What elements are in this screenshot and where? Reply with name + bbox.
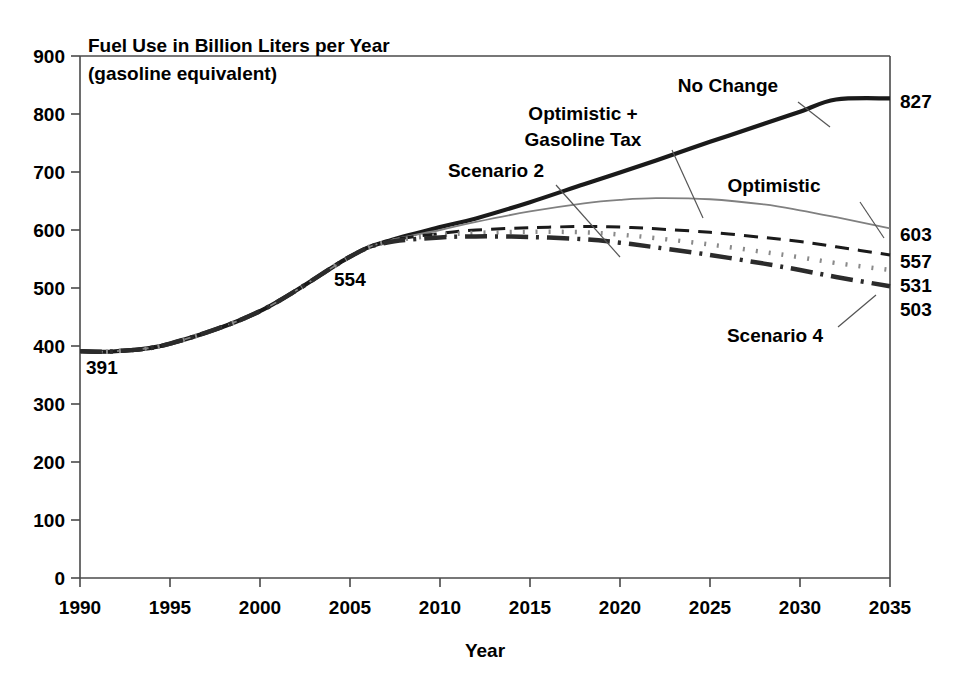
endpoint-value-label-827: 827 (900, 91, 932, 112)
x-tick-label: 2015 (509, 597, 552, 618)
y-tick-label: 300 (33, 394, 65, 415)
y-tick-label: 0 (54, 568, 65, 589)
x-tick-label: 2035 (869, 597, 912, 618)
endpoint-value-label-603: 603 (900, 224, 932, 245)
point-value-label-554: 554 (334, 269, 366, 290)
y-tick-label: 700 (33, 162, 65, 183)
fuel-use-line-chart: 0100200300400500600700800900 19901995200… (0, 0, 964, 680)
endpoint-value-label-557: 557 (900, 251, 932, 272)
chart-title: Fuel Use in Billion Liters per Year (88, 35, 390, 56)
x-axis-title: Year (465, 640, 506, 661)
x-tick-label: 1995 (149, 597, 192, 618)
y-tick-label: 900 (33, 46, 65, 67)
chart-subtitle: (gasoline equivalent) (88, 63, 277, 84)
endpoint-value-label-531: 531 (900, 275, 932, 296)
annotation-label-optimistic: Optimistic (728, 175, 821, 196)
x-tick-label: 2025 (689, 597, 732, 618)
y-tick-label: 100 (33, 510, 65, 531)
endpoint-value-label-503: 503 (900, 299, 932, 320)
point-value-label-391: 391 (86, 357, 118, 378)
annotation-label-scenario-4: Scenario 4 (727, 325, 824, 346)
x-tick-label: 2000 (239, 597, 281, 618)
y-tick-label: 800 (33, 104, 65, 125)
annotation-label-scenario-2: Scenario 2 (448, 160, 544, 181)
y-tick-label: 200 (33, 452, 65, 473)
annotation-label-no-change: No Change (678, 75, 778, 96)
x-tick-label: 1990 (59, 597, 101, 618)
x-tick-label: 2030 (779, 597, 821, 618)
y-tick-label: 500 (33, 278, 65, 299)
x-tick-label: 2010 (419, 597, 461, 618)
y-tick-label: 400 (33, 336, 65, 357)
y-tick-label: 600 (33, 220, 65, 241)
x-tick-label: 2020 (599, 597, 641, 618)
x-tick-label: 2005 (329, 597, 372, 618)
